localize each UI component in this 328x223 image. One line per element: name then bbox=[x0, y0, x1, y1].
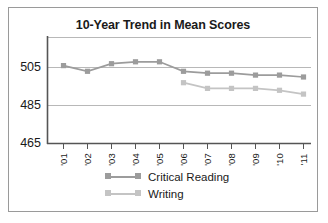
legend-swatch-writing bbox=[105, 188, 141, 199]
series-critical-reading bbox=[61, 59, 306, 79]
data-point-critical-reading-08 bbox=[229, 71, 234, 76]
y-tick-label-485: 485 bbox=[9, 98, 41, 112]
x-tick-label-01: '01 bbox=[58, 149, 69, 171]
series-writing bbox=[181, 80, 306, 97]
data-point-writing-09 bbox=[253, 86, 258, 91]
data-point-critical-reading-02 bbox=[85, 69, 90, 74]
legend-label-writing: Writing bbox=[148, 188, 184, 200]
data-point-critical-reading-05 bbox=[157, 59, 162, 64]
chart-legend: Critical Reading Writing bbox=[105, 168, 285, 202]
legend-item-critical-reading[interactable]: Critical Reading bbox=[105, 168, 285, 185]
data-point-critical-reading-03 bbox=[109, 61, 114, 66]
x-tick-label-11: '11 bbox=[298, 149, 309, 171]
y-tick-label-465: 465 bbox=[9, 136, 41, 150]
data-point-critical-reading-01 bbox=[61, 63, 66, 68]
data-point-critical-reading-04 bbox=[133, 59, 138, 64]
plot-area: 505 485 465 '01 '02 '03 '04 '05 '06 '07 … bbox=[9, 8, 319, 213]
data-point-writing-07 bbox=[205, 86, 210, 91]
chart-card: 10-Year Trend in Mean Scores bbox=[8, 7, 318, 212]
data-point-critical-reading-06 bbox=[181, 69, 186, 74]
data-point-critical-reading-09 bbox=[253, 73, 258, 78]
data-point-critical-reading-11 bbox=[301, 74, 306, 79]
y-tick-label-505: 505 bbox=[9, 60, 41, 74]
data-point-critical-reading-10 bbox=[277, 73, 282, 78]
data-point-critical-reading-07 bbox=[205, 71, 210, 76]
legend-item-writing[interactable]: Writing bbox=[105, 185, 285, 202]
data-point-writing-06 bbox=[181, 80, 186, 85]
data-point-writing-08 bbox=[229, 86, 234, 91]
legend-label-critical-reading: Critical Reading bbox=[148, 171, 229, 183]
data-point-writing-10 bbox=[277, 88, 282, 93]
legend-swatch-critical-reading bbox=[105, 171, 141, 182]
data-point-writing-11 bbox=[301, 92, 306, 97]
x-tick-label-02: '02 bbox=[82, 149, 93, 171]
